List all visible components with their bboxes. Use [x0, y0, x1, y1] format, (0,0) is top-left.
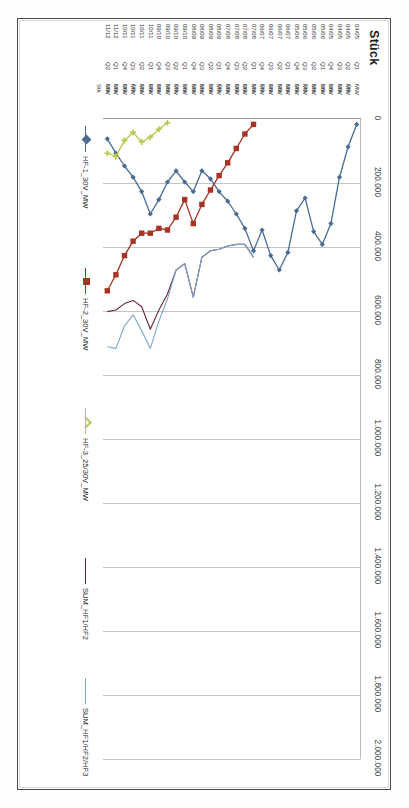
data-point-marker	[139, 231, 144, 236]
category-quarter: Q3	[129, 62, 138, 70]
category-label: MWQ410/11	[120, 22, 129, 118]
data-point-marker	[148, 231, 153, 236]
category-period: 07/08	[249, 24, 258, 39]
legend-swatch-icon	[81, 268, 91, 294]
category-period: 09/10	[155, 24, 164, 39]
category-label: MWQ105/06	[318, 22, 327, 118]
data-point-marker	[156, 226, 161, 231]
y-axis-tick-label: 0	[373, 116, 383, 121]
data-point-marker	[260, 227, 265, 232]
data-point-marker	[130, 239, 135, 244]
category-quarter: Q3	[198, 62, 207, 70]
category-label: MWQ406/07	[258, 22, 267, 118]
category-period: 06/07	[284, 24, 293, 39]
legend-label: HF-3_25/30V_MW	[82, 438, 91, 501]
category-unit: MW	[284, 84, 293, 95]
category-unit: MW	[292, 84, 301, 95]
category-period: 05/06	[292, 24, 301, 39]
legend-item-3[interactable]: SUM_HF1/HF2	[81, 558, 91, 640]
series-line-4	[107, 244, 253, 348]
category-period: 05/06	[301, 24, 310, 39]
category-period: 08/09	[189, 24, 198, 39]
category-unit: MW	[266, 84, 275, 95]
data-point-marker	[122, 253, 127, 258]
category-label: MWQ204/05	[344, 22, 353, 118]
category-quarter: Q4	[327, 62, 336, 70]
category-period: 10/11	[137, 24, 146, 39]
data-point-marker	[216, 173, 221, 178]
category-unit: MW	[258, 84, 267, 95]
category-unit: MW	[352, 84, 361, 95]
category-period: 07/08	[232, 24, 241, 39]
category-quarter: Q4	[155, 62, 164, 70]
y-axis-tick-label: 600.000	[373, 295, 383, 325]
category-period: 09/10	[172, 24, 181, 39]
category-period: 05/06	[309, 24, 318, 39]
category-period: 06/07	[266, 24, 275, 39]
category-label: MWQ110/11	[146, 22, 155, 118]
y-axis-tick-label: 1.200.000	[373, 484, 383, 521]
category-period: 09/10	[163, 24, 172, 39]
category-unit: MW	[327, 84, 336, 95]
category-label: MWQ207/08	[241, 22, 250, 118]
legend-item-2[interactable]: HF-3_25/30V_MW	[81, 408, 91, 501]
category-quarter: Q1	[318, 62, 327, 70]
category-quarter: Q3	[335, 62, 344, 70]
category-label: MWQ405/06	[292, 22, 301, 118]
data-point-marker	[105, 288, 110, 293]
category-quarter: Q3	[301, 62, 310, 70]
category-quarter: Q4	[120, 62, 129, 70]
category-label: MWQ404/05	[327, 22, 336, 118]
category-period: 11/12	[112, 24, 121, 39]
axis-title-stueck: Stück	[367, 30, 381, 66]
category-quarter: Q1	[180, 62, 189, 70]
category-quarter: Q2	[344, 62, 353, 70]
y-axis-tick-label: 200.000	[373, 167, 383, 197]
legend-item-0[interactable]: HF-1_30V_MW	[81, 126, 91, 208]
category-quarter: Q1	[146, 62, 155, 70]
category-period: 10/11	[129, 24, 138, 39]
category-quarter: Q2	[275, 62, 284, 70]
data-point-marker	[251, 248, 256, 253]
legend-label: SUM_HF1/HF2	[82, 588, 91, 640]
legend-item-1[interactable]: HF-2_30V_MW	[81, 268, 91, 350]
data-point-marker	[113, 153, 119, 159]
category-label: MWQ208/09	[206, 22, 215, 118]
y-axis-tick-label: 400.000	[373, 231, 383, 261]
legend-swatch-icon	[81, 408, 91, 434]
y-axis-tick-label: 1.400.000	[373, 548, 383, 585]
data-point-marker	[225, 160, 230, 165]
category-period: 04/05	[344, 24, 353, 39]
category-unit: MW	[241, 84, 250, 95]
category-period: 07/08	[223, 24, 232, 39]
data-point-marker	[337, 175, 342, 180]
y-axis-tick-label: 800.000	[373, 359, 383, 389]
data-point-marker	[104, 150, 110, 156]
series-line-0	[107, 124, 356, 270]
category-label: MWQ104/05	[352, 22, 361, 118]
category-unit: MW	[275, 84, 284, 95]
category-label: MWQ109/10	[180, 22, 189, 118]
data-point-marker	[328, 221, 333, 226]
category-label: MWQ306/07	[266, 22, 275, 118]
category-label: MWQ205/06	[309, 22, 318, 118]
legend-item-4[interactable]: SUM_HF1/HF2/HF3	[81, 678, 91, 776]
category-unit: MW	[223, 84, 232, 95]
category-unit: MW	[206, 84, 215, 95]
category-subunit: Stk	[95, 84, 104, 93]
category-quarter: Q1	[284, 62, 293, 70]
category-unit: MW	[344, 84, 353, 95]
category-period: 08/09	[206, 24, 215, 39]
category-unit: MW	[232, 84, 241, 95]
category-period: 07/08	[241, 24, 250, 39]
chart-legend: HF-1_30V_MWHF-2_30V_MWHF-3_25/30V_MWSUM_…	[65, 118, 91, 758]
series-layer	[103, 118, 361, 758]
category-label: MWQ107/08	[249, 22, 258, 118]
category-label: MWQ408/09	[189, 22, 198, 118]
category-period: 06/07	[275, 24, 284, 39]
category-quarter: Q3	[163, 62, 172, 70]
category-quarter: Q1	[249, 62, 258, 70]
data-point-marker	[173, 215, 178, 220]
category-unit: MW	[335, 84, 344, 95]
category-label: MWQ308/09	[198, 22, 207, 118]
